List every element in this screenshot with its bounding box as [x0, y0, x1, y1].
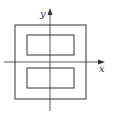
y-axis-arrow-icon [48, 8, 53, 15]
y-axis-label: y [39, 8, 46, 19]
x-axis-label: x [99, 63, 105, 74]
cross-section-diagram: x y [0, 0, 114, 118]
inner-bottom-rectangle [27, 68, 74, 88]
inner-top-rectangle [27, 35, 74, 55]
